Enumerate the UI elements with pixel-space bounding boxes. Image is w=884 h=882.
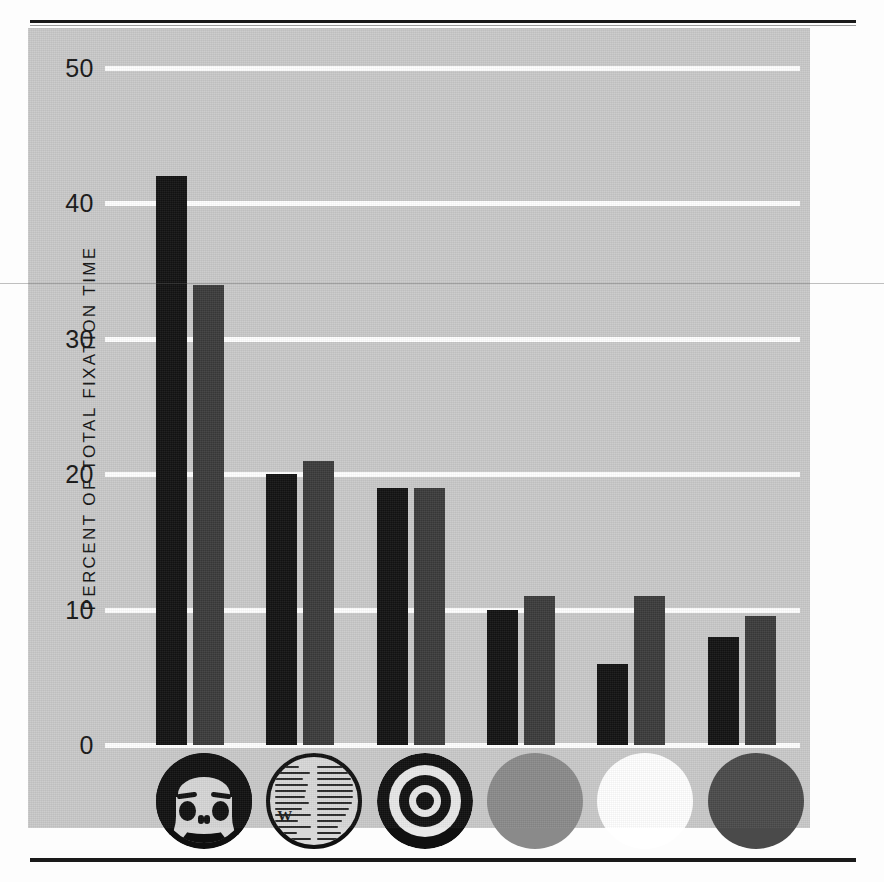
stimulus-slot-bullseye [359, 751, 469, 851]
stimulus-slot-gray [469, 751, 579, 851]
page-rule-bottom [30, 858, 856, 862]
stimulus-slot-red [690, 751, 800, 851]
red-disk-icon [708, 753, 804, 849]
bar-group-bullseye [359, 68, 469, 745]
stimulus-slot-face [138, 751, 248, 851]
y-tick-mark-40 [105, 201, 138, 206]
gray-disk-icon [487, 753, 583, 849]
page-rule-top [30, 20, 856, 23]
y-axis-title: PERCENT OF TOTAL FIXATION TIME [80, 245, 100, 610]
bullseye-icon [377, 753, 473, 849]
y-tick-mark-0 [105, 743, 138, 748]
bar-red-disk-series-2[interactable] [745, 616, 776, 745]
bar-group-red-disk [690, 68, 800, 745]
bar-group-face [138, 68, 248, 745]
scan-artifact [0, 283, 884, 284]
y-tick-mark-10 [105, 608, 138, 613]
bar-gray-disk-series-2[interactable] [524, 596, 555, 745]
figure-plate: 01020304050 PERCENT OF TOTAL FIXATION TI… [28, 28, 810, 828]
y-tick-label-0: 0 [80, 731, 94, 760]
face-icon [156, 753, 252, 849]
bar-newsprint-series-2[interactable] [303, 461, 334, 745]
bar-bullseye-series-1[interactable] [377, 488, 408, 745]
bar-face-series-1[interactable] [156, 176, 187, 745]
white-disk-icon [597, 753, 693, 849]
bar-white-disk-series-2[interactable] [634, 596, 665, 745]
bar-group-gray-disk [469, 68, 579, 745]
y-tick-mark-50 [105, 66, 138, 71]
bar-gray-disk-series-1[interactable] [487, 610, 518, 745]
y-tick-label-40: 40 [65, 189, 94, 218]
newsprint-icon: W [266, 753, 362, 849]
y-tick-label-50: 50 [65, 54, 94, 83]
bar-face-series-2[interactable] [193, 285, 224, 745]
stimulus-icon-row: W [138, 751, 800, 851]
stimulus-slot-newsprint: W [248, 751, 358, 851]
bar-group-white-disk [579, 68, 689, 745]
newsprint-dropcap: W [277, 809, 292, 824]
stimulus-slot-white [579, 751, 689, 851]
bar-bullseye-series-2[interactable] [414, 488, 445, 745]
bar-white-disk-series-1[interactable] [597, 664, 628, 745]
bar-newsprint-series-1[interactable] [266, 474, 297, 745]
plot-area: 01020304050 [138, 68, 800, 745]
bar-group-newsprint [248, 68, 358, 745]
y-tick-mark-20 [105, 472, 138, 477]
bar-red-disk-series-1[interactable] [708, 637, 739, 745]
y-tick-mark-30 [105, 337, 138, 342]
bar-group-container [138, 68, 800, 745]
